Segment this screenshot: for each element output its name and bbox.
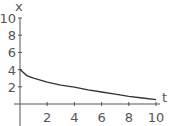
svg-text:4: 4	[70, 110, 78, 125]
svg-text:8: 8	[125, 110, 133, 125]
data-curve	[20, 70, 156, 100]
svg-text:6: 6	[8, 45, 16, 60]
svg-text:4: 4	[8, 63, 16, 78]
y-axis-label: x	[15, 0, 23, 14]
chart: t x 246810 246810	[0, 0, 170, 126]
svg-text:2: 2	[43, 110, 51, 125]
y-axis-ticks: 246810	[0, 11, 16, 95]
svg-text:6: 6	[97, 110, 105, 125]
axes	[14, 18, 160, 126]
x-axis-label: t	[162, 90, 167, 105]
svg-text:2: 2	[8, 80, 16, 95]
x-axis-ticks: 246810	[43, 110, 164, 125]
svg-text:10: 10	[0, 11, 16, 26]
svg-text:8: 8	[8, 28, 16, 43]
svg-text:10: 10	[148, 110, 165, 125]
